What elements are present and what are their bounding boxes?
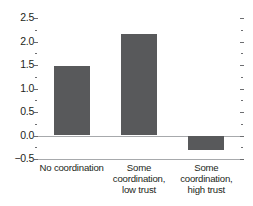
y-axis-tick-minor-right xyxy=(241,77,243,78)
bar xyxy=(121,34,157,135)
y-axis-tick-major xyxy=(34,65,38,66)
y-axis-tick-major xyxy=(34,18,38,19)
y-axis-tick-minor-right xyxy=(241,124,243,125)
y-axis-tick-label: 2.0 xyxy=(0,36,34,47)
y-axis-tick-label: 0.0 xyxy=(0,130,34,141)
y-axis-tick-major xyxy=(34,42,38,43)
y-axis-tick-major-right xyxy=(240,159,244,160)
y-axis-tick-label: 2.5 xyxy=(0,12,34,23)
y-axis-tick-major-right xyxy=(240,42,244,43)
bar-chart: 2.52.01.51.00.50.0−0.5 No coordinationSo… xyxy=(0,0,253,206)
y-axis-tick-major-right xyxy=(240,112,244,113)
x-axis-line xyxy=(38,159,240,160)
y-axis-tick-major-right xyxy=(240,89,244,90)
y-axis-tick-minor xyxy=(35,100,37,101)
y-axis-tick-major xyxy=(34,89,38,90)
bar xyxy=(188,136,224,150)
y-axis-tick-minor xyxy=(35,124,37,125)
y-axis-tick-label: 0.5 xyxy=(0,106,34,117)
y-axis-tick-major-right xyxy=(240,18,244,19)
y-axis-tick-minor xyxy=(35,30,37,31)
x-axis-category-label: Some coordination, high trust xyxy=(158,162,253,196)
plot-area: 2.52.01.51.00.50.0−0.5 xyxy=(38,14,240,160)
y-axis-tick-label: 1.5 xyxy=(0,59,34,70)
y-axis-tick-minor-right xyxy=(241,147,243,148)
y-axis-tick-minor xyxy=(35,147,37,148)
y-axis-tick-minor-right xyxy=(241,30,243,31)
y-axis-tick-minor-right xyxy=(241,100,243,101)
y-axis-tick-label: 1.0 xyxy=(0,83,34,94)
y-axis-tick-minor-right xyxy=(241,53,243,54)
y-axis-tick-major-right xyxy=(240,65,244,66)
bar xyxy=(54,66,90,135)
y-axis-tick-major-right xyxy=(240,136,244,137)
y-axis-tick-minor xyxy=(35,77,37,78)
y-axis-tick-major xyxy=(34,112,38,113)
y-axis-tick-minor xyxy=(35,53,37,54)
